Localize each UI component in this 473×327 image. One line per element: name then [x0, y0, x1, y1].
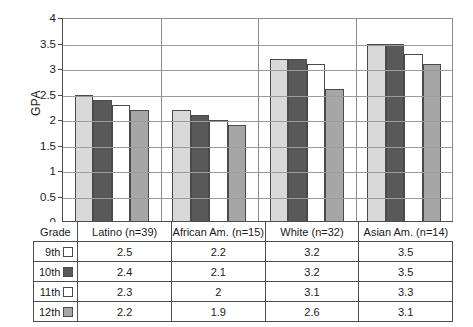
table-cell: 3.2: [265, 242, 359, 262]
bar-9th-african-am-n-15-: [172, 110, 191, 222]
y-tick-label: 1.5: [16, 140, 56, 152]
plot-area: [62, 18, 452, 222]
y-tick-label: 0.5: [16, 191, 56, 203]
plot-right-border: [452, 18, 453, 222]
y-tick-label: 3.5: [16, 38, 56, 50]
table-cell: 1.9: [171, 302, 265, 322]
table-cell: 2.6: [265, 302, 359, 322]
table-cell: 3.5: [359, 242, 453, 262]
table-cell: 3.5: [359, 262, 453, 282]
legend-row-12th: 12th: [34, 302, 78, 322]
category-separator: [161, 19, 162, 222]
y-tick-label: 2.5: [16, 89, 56, 101]
table-row: 9th2.52.23.23.5: [34, 242, 453, 262]
y-tick-label: 3: [16, 63, 56, 75]
table-cell: 2.2: [171, 242, 265, 262]
table-cell: 2: [171, 282, 265, 302]
table-column-header-3: Asian Am. (n=14): [359, 222, 453, 242]
table-cell: 2.2: [78, 302, 172, 322]
y-tick-mark: [58, 18, 62, 19]
y-tick-label: 2: [16, 114, 56, 126]
table-row: 10th2.42.13.23.5: [34, 262, 453, 282]
table-column-header-0: Latino (n=39): [78, 222, 172, 242]
y-tick-mark: [58, 197, 62, 198]
legend-row-10th: 10th: [34, 262, 78, 282]
table-cell: 3.1: [265, 282, 359, 302]
bar-10th-african-am-n-15-: [191, 115, 210, 222]
grade-label: 9th: [45, 246, 60, 258]
legend-swatch-icon: [63, 287, 73, 297]
table-corner-header: Grade: [34, 222, 78, 242]
table-header-row: Grade Latino (n=39)African Am. (n=15)Whi…: [34, 222, 453, 242]
table-cell: 2.5: [78, 242, 172, 262]
table-cell: 2.3: [78, 282, 172, 302]
legend-swatch-icon: [63, 247, 73, 257]
data-table: Grade Latino (n=39)African Am. (n=15)Whi…: [33, 222, 453, 322]
table-body: 9th2.52.23.23.510th2.42.13.23.511th2.323…: [34, 242, 453, 322]
table-cell: 2.1: [171, 262, 265, 282]
legend-row-9th: 9th: [34, 242, 78, 262]
y-tick-mark: [58, 120, 62, 121]
table-cell: 3.1: [359, 302, 453, 322]
y-tick-mark: [58, 95, 62, 96]
y-tick-label: 1: [16, 165, 56, 177]
table-column-header-2: White (n=32): [265, 222, 359, 242]
legend-row-11th: 11th: [34, 282, 78, 302]
y-tick-mark: [58, 69, 62, 70]
bar-12th-white-n-32-: [325, 89, 344, 222]
bar-10th-latino-n-39-: [93, 100, 112, 222]
bar-9th-latino-n-39-: [75, 95, 94, 223]
y-tick-label: 4: [16, 12, 56, 24]
y-tick-mark: [58, 44, 62, 45]
table-cell: 2.4: [78, 262, 172, 282]
table-cell: 3.3: [359, 282, 453, 302]
grade-label: 11th: [40, 286, 61, 298]
table-row: 11th2.323.13.3: [34, 282, 453, 302]
legend-swatch-icon: [63, 267, 73, 277]
legend-swatch-icon: [63, 307, 73, 317]
chart-figure: GPA 43.532.521.510.50 Grade Latino (n=39…: [0, 0, 473, 327]
bar-11th-african-am-n-15-: [209, 120, 228, 222]
table-cell: 3.2: [265, 262, 359, 282]
bar-11th-latino-n-39-: [112, 105, 131, 222]
category-separator: [258, 19, 259, 222]
table-column-header-1: African Am. (n=15): [171, 222, 265, 242]
table-row: 12th2.21.92.63.1: [34, 302, 453, 322]
category-separator: [356, 19, 357, 222]
bar-12th-latino-n-39-: [130, 110, 149, 222]
grade-label: 10th: [39, 266, 60, 278]
y-tick-mark: [58, 171, 62, 172]
bar-12th-african-am-n-15-: [228, 125, 247, 222]
grade-label: 12th: [39, 306, 60, 318]
y-tick-mark: [58, 146, 62, 147]
